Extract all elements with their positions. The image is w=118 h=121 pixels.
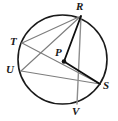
vertex-label-R: R — [76, 1, 83, 12]
center-point-dot — [62, 59, 67, 64]
center-label-P: P — [55, 47, 62, 58]
chord-R-V — [77, 16, 81, 104]
vertex-label-U: U — [6, 64, 14, 75]
circle-P-outline — [18, 15, 107, 104]
vertex-label-T: T — [10, 36, 17, 47]
geometry-canvas — [0, 0, 118, 121]
chord-U-R — [21, 16, 81, 71]
vertex-label-V: V — [72, 106, 79, 117]
geometry-figure: R T U S V P — [0, 0, 118, 121]
vertex-label-S: S — [103, 80, 109, 91]
